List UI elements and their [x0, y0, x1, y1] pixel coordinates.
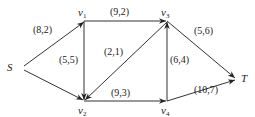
node-v3: v3	[161, 6, 170, 20]
edge-label-v2-v4: (9,3)	[111, 87, 130, 99]
edge-label-v1-v3: (9,2)	[110, 6, 129, 18]
edge-label-v4-v3: (6,4)	[170, 54, 189, 66]
edge-s-v2	[24, 70, 83, 100]
edge-label-v4-t: (10,7)	[194, 84, 218, 96]
node-s: S	[7, 61, 13, 73]
flow-network-diagram: (8,2) (9,2) (5,5) (2,1) (9,3) (6,4) (5,6…	[0, 0, 255, 117]
node-t: T	[241, 72, 248, 84]
edge-label-v3-v2: (2,1)	[104, 46, 123, 58]
node-v2: v2	[78, 104, 87, 117]
edge-label-s-v1: (8,2)	[33, 24, 52, 36]
node-v1: v1	[78, 6, 87, 20]
edge-label-v3-t: (5,6)	[194, 25, 213, 37]
edge-label-v1-v2: (5,5)	[59, 54, 78, 66]
node-v4: v4	[161, 104, 170, 117]
